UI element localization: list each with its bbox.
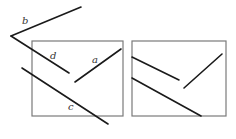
right-line-lower xyxy=(132,78,201,116)
label-c: c xyxy=(68,101,74,112)
diagram-canvas: b d a c xyxy=(0,0,236,139)
label-b: b xyxy=(22,15,28,26)
left-panel: b d a c xyxy=(11,7,123,124)
label-a: a xyxy=(92,54,98,65)
right-line-a xyxy=(184,54,222,88)
line-a xyxy=(75,49,121,82)
right-line-upper xyxy=(132,57,179,80)
label-d: d xyxy=(50,50,56,61)
right-panel xyxy=(132,41,226,116)
